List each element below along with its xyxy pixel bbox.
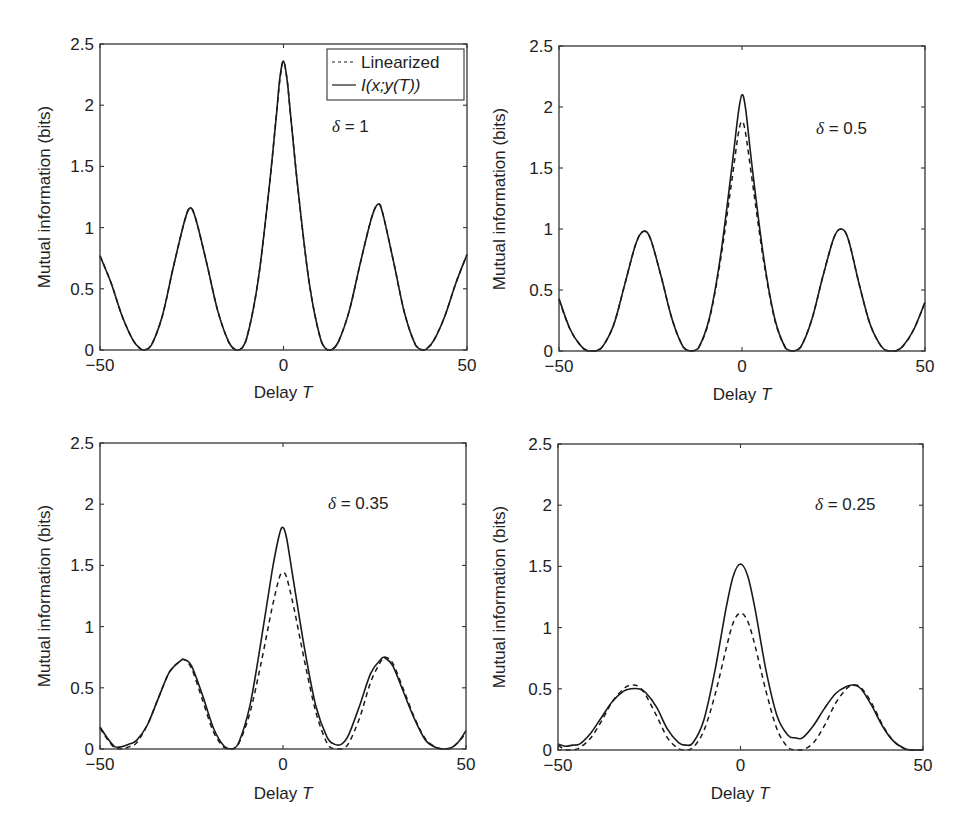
y-axis-label: Mutual information (bits) [35,505,54,687]
x-tick-label: −50 [544,756,573,775]
figure: 00.511.522.5−50050 δ = 1 Delay T Mutual … [0,0,963,839]
plot-frame [100,443,466,749]
x-tick-label: −50 [86,356,115,375]
y-tick-label: 1.5 [529,159,553,178]
x-tick-label: 50 [458,356,477,375]
y-tick-label: 2 [543,496,552,515]
y-tick-label: 0.5 [528,680,552,699]
delta-annotation: δ = 0.35 [328,494,388,513]
x-tick-label: 50 [914,756,933,775]
y-tick-label: 2 [544,98,553,117]
x-axis-label: Delay T [711,784,771,803]
x-tick-label: 0 [736,756,745,775]
y-tick-label: 1.5 [70,157,94,176]
mutual-information-curve [100,527,466,749]
delta-annotation: δ = 0.25 [815,495,875,514]
plot-frame [558,444,923,750]
x-axis-label: Delay T [254,784,314,803]
legend-label-linearized: Linearized [361,53,439,72]
y-axis-label: Mutual information (bits) [35,106,54,288]
linearized-curve [559,122,925,351]
delta-annotation: δ = 0.5 [816,119,867,138]
panel-delta-0.5: 00.511.522.5−50050 δ = 0.5 Delay T Mutua… [490,37,934,404]
mutual-information-curve [558,564,923,750]
plot-frame [559,46,925,351]
linearized-curve [100,573,466,749]
y-tick-label: 2 [85,96,94,115]
y-tick-label: 0.5 [70,679,94,698]
x-tick-label: 0 [278,755,287,774]
y-tick-label: 1 [543,619,552,638]
mutual-information-curve [100,61,467,350]
x-axis-label: Delay T [254,383,314,402]
y-axis-label: Mutual information (bits) [490,506,509,688]
x-tick-label: −50 [545,357,574,376]
y-tick-label: 1.5 [70,556,94,575]
y-tick-label: 2.5 [529,37,553,56]
x-tick-label: 50 [457,755,476,774]
panel-delta-1: 00.511.522.5−50050 δ = 1 Delay T Mutual … [35,35,476,402]
y-tick-label: 2.5 [528,435,552,454]
y-tick-label: 2 [85,495,94,514]
y-axis-label: Mutual information (bits) [490,108,509,290]
x-tick-label: 0 [737,357,746,376]
y-tick-label: 1 [85,219,94,238]
x-tick-label: −50 [86,755,115,774]
linearized-curve [558,613,923,750]
legend-label-mutual-information: I(x;y(T)) [361,76,420,95]
y-tick-label: 0.5 [529,281,553,300]
x-tick-label: 0 [279,356,288,375]
delta-annotation: δ = 1 [332,117,369,136]
panel-delta-0.25: 00.511.522.5−50050 δ = 0.25 Delay T Mutu… [490,435,932,803]
y-tick-label: 2.5 [70,35,94,54]
y-tick-label: 0.5 [70,280,94,299]
x-axis-label: Delay T [713,385,773,404]
panel-delta-0.35: 00.511.522.5−50050 δ = 0.35 Delay T Mutu… [35,434,475,803]
legend: Linearized I(x;y(T)) [327,49,464,100]
mutual-information-curve [559,95,925,351]
y-tick-label: 1 [85,618,94,637]
y-tick-label: 2.5 [70,434,94,453]
linearized-curve [100,61,467,350]
y-tick-label: 1 [544,220,553,239]
x-tick-label: 50 [916,357,935,376]
y-tick-label: 1.5 [528,557,552,576]
